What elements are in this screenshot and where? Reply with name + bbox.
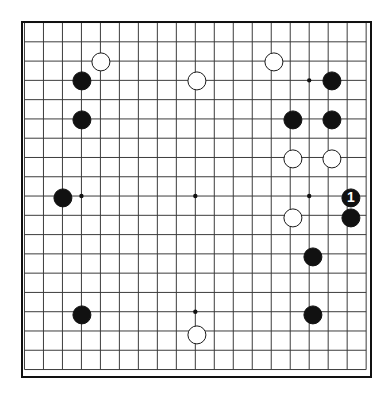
white-stone-o12[interactable] [284, 149, 303, 168]
white-stone-k3[interactable] [188, 325, 207, 344]
black-stone-q14[interactable] [322, 110, 341, 129]
white-stone-k16[interactable] [188, 71, 207, 90]
black-stone-c10[interactable] [53, 188, 72, 207]
white-stone-d17[interactable] [92, 52, 111, 71]
black-stone-move-1[interactable]: 1 [341, 188, 360, 207]
white-stone-n18[interactable] [265, 52, 284, 71]
black-stone-d4[interactable] [73, 305, 92, 324]
black-stone-q16[interactable] [322, 71, 341, 90]
black-stone-c14[interactable] [73, 110, 92, 129]
go-board-diagram: 1 [0, 0, 390, 402]
black-stone-s9[interactable] [341, 208, 360, 227]
stone-move-number: 1 [347, 191, 355, 205]
black-stone-q4[interactable] [303, 305, 322, 324]
black-stone-c16[interactable] [73, 71, 92, 90]
stone-layer: 1 [23, 23, 370, 376]
board-frame: 1 [21, 21, 372, 378]
white-stone-o9[interactable] [284, 208, 303, 227]
black-stone-n14[interactable] [284, 110, 303, 129]
black-stone-q7[interactable] [303, 247, 322, 266]
white-stone-r12[interactable] [322, 149, 341, 168]
